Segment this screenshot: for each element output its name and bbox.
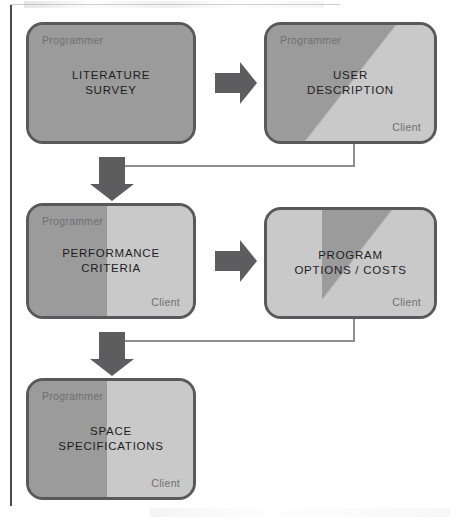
role-label-client: Client (392, 121, 421, 133)
role-label-client: Client (392, 296, 421, 308)
node-title: SPACE SPECIFICATIONS (29, 424, 193, 454)
arrow-description-to-criteria (88, 155, 136, 203)
connector-vertical-segment-upper (353, 144, 355, 167)
node-title: USER DESCRIPTION (267, 68, 434, 98)
connector-horizontal-segment-upper (112, 165, 355, 167)
scan-artifact-top (24, 1, 324, 8)
role-label-programmer: Programmer (42, 390, 103, 402)
diagram-canvas: Programmer LITERATURE SURVEY Programmer … (0, 0, 463, 523)
node-space-specifications[interactable]: Programmer Client SPACE SPECIFICATIONS (26, 378, 196, 500)
node-title: PROGRAM OPTIONS / COSTS (267, 248, 434, 278)
node-user-description[interactable]: Programmer Client USER DESCRIPTION (264, 22, 437, 144)
connector-horizontal-segment-lower (112, 340, 355, 342)
node-literature-survey[interactable]: Programmer LITERATURE SURVEY (26, 22, 196, 144)
role-label-client: Client (151, 477, 180, 489)
arrow-survey-to-description (213, 60, 259, 106)
page-frame-left-rule (10, 4, 12, 506)
arrow-options-to-specifications (88, 330, 136, 378)
role-label-programmer: Programmer (42, 34, 103, 46)
role-label-programmer: Programmer (42, 215, 103, 227)
node-title: LITERATURE SURVEY (29, 68, 193, 98)
node-performance-criteria[interactable]: Programmer Client PERFORMANCE CRITERIA (26, 203, 196, 319)
role-label-programmer: Programmer (280, 34, 341, 46)
role-label-client: Client (151, 296, 180, 308)
connector-vertical-segment-lower (353, 319, 355, 342)
scan-artifact-bottom (150, 508, 450, 517)
arrow-criteria-to-options (213, 238, 259, 284)
node-title: PERFORMANCE CRITERIA (29, 246, 193, 276)
node-program-options-costs[interactable]: Client PROGRAM OPTIONS / COSTS (264, 207, 437, 319)
